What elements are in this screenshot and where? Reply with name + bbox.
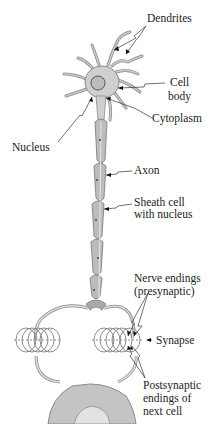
label-synapse: Synapse <box>156 334 194 347</box>
label-sheath-line2: with nucleus <box>134 208 192 221</box>
label-axon: Axon <box>134 164 160 177</box>
label-sheath-line1: Sheath cell <box>134 196 185 209</box>
label-nerve-endings-line1: Nerve endings <box>134 272 201 285</box>
label-cell-body-line2: body <box>168 90 191 103</box>
label-postsynaptic-line3: next cell <box>143 405 182 418</box>
label-postsynaptic-line1: Postsynaptic <box>143 379 201 392</box>
label-cell-body-line1: Cell <box>170 76 189 89</box>
label-nerve-endings-line2: (presynaptic) <box>134 285 195 298</box>
label-nucleus: Nucleus <box>12 141 50 154</box>
label-dendrites: Dendrites <box>147 12 192 25</box>
nucleus <box>91 76 105 90</box>
label-cytoplasm: Cytoplasm <box>152 112 202 125</box>
label-postsynaptic-line2: endings of <box>143 392 191 405</box>
left-synapse <box>14 328 62 352</box>
